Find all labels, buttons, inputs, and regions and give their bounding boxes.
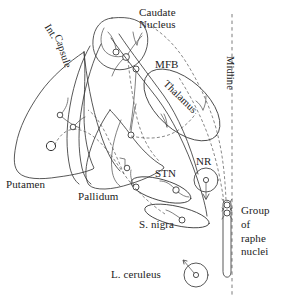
neuron-axon-caudate-1 <box>108 32 116 49</box>
neuron-axon-stn <box>160 181 174 188</box>
neuron-axon-pallidum-1 <box>120 158 125 166</box>
label-subthalamic-nucleus: STN <box>155 167 176 179</box>
pallidum-inner-border <box>111 120 121 186</box>
internal-capsule-inner-edge <box>79 44 101 184</box>
neuron-dendrite-stn <box>178 192 189 197</box>
label-mfb: MFB <box>155 58 179 70</box>
label-caudate-nucleus: Caudate Nucleus <box>139 6 176 31</box>
neuron-axon-substantia-nigra <box>166 210 180 218</box>
caudate-branch-1 <box>133 32 137 45</box>
raphe-soma-upper <box>224 202 230 208</box>
neuron-dendrite-caudate <box>112 59 123 76</box>
label-substantia-nigra: S. nigra <box>139 218 174 230</box>
label-locus-ceruleus: L. ceruleus <box>111 268 161 280</box>
label-midline: Midline <box>224 56 236 90</box>
raphe-soma-lower <box>224 210 230 216</box>
neuron-soma-putamen-3 <box>46 141 55 150</box>
neuron-soma-caudate-1 <box>113 49 119 55</box>
label-group-of-raphe-nuclei: Group of raphe nuclei <box>241 204 270 259</box>
nucleus-raphe-soma <box>203 177 208 182</box>
neuroanatomy-diagram: Caudate Nucleus Int. Capsule MFB Thalamu… <box>0 0 283 300</box>
neuron-axon-caudate-tail <box>130 72 136 130</box>
neuron-axon-putamen-1 <box>62 98 68 113</box>
label-pallidum: Pallidum <box>78 190 119 202</box>
pathway-striatopallidal <box>131 113 196 138</box>
label-putamen: Putamen <box>6 178 45 190</box>
locus-ceruleus-axon <box>184 261 194 273</box>
label-nucleus-raphe: NR <box>196 155 211 167</box>
neuron-soma-capsule-1 <box>128 132 134 138</box>
putamen-outline <box>14 52 94 179</box>
thalamus-branch-1 <box>203 96 206 110</box>
neuron-axon-caudate-2 <box>128 36 142 54</box>
